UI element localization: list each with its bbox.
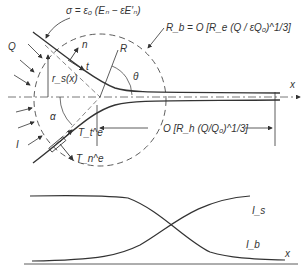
base-radius-arrow — [148, 28, 164, 48]
label-Q: Q — [8, 41, 16, 52]
label-I: I — [16, 139, 19, 150]
label-alpha: α — [50, 111, 56, 122]
label-t: t — [86, 61, 90, 72]
label-rs: r_s(x) — [52, 73, 78, 84]
flow-arrows-upper — [14, 44, 42, 85]
label-n: n — [82, 39, 88, 50]
label-length-scale: O [R_h (Q/Q₀)^1/3] — [163, 123, 248, 134]
curve-Is — [32, 196, 250, 261]
tangent-vector — [68, 60, 84, 70]
label-theta: θ — [133, 71, 139, 82]
alpha-arc — [60, 97, 72, 125]
x-axis-label-top: x — [289, 79, 296, 90]
label-R: R — [120, 43, 127, 54]
curve-Ib — [30, 196, 285, 260]
radius-line — [100, 50, 118, 97]
normal-stress-vector — [60, 144, 73, 160]
label-base-radius: R_b = O [R_e (Q / εQ₀)^1/3] — [166, 22, 291, 33]
surface-charge-arrow — [46, 18, 70, 38]
diagram-canvas: x R θ α σ = ε₀ (Eₙ − εE′ₙ) R_b = O [R_e … — [0, 0, 307, 278]
label-Is: I_s — [252, 205, 265, 216]
cone-tangent-upper — [45, 45, 100, 97]
normal-vector — [70, 48, 78, 60]
x-axis-label-bottom: x — [284, 248, 291, 259]
label-Tn: T_n^e — [76, 153, 104, 164]
flow-arrows-lower — [16, 108, 42, 145]
label-Ib: I_b — [246, 239, 260, 250]
label-surface-charge: σ = ε₀ (Eₙ − εE′ₙ) — [66, 5, 140, 16]
label-Tt: T_t^e — [78, 127, 103, 138]
